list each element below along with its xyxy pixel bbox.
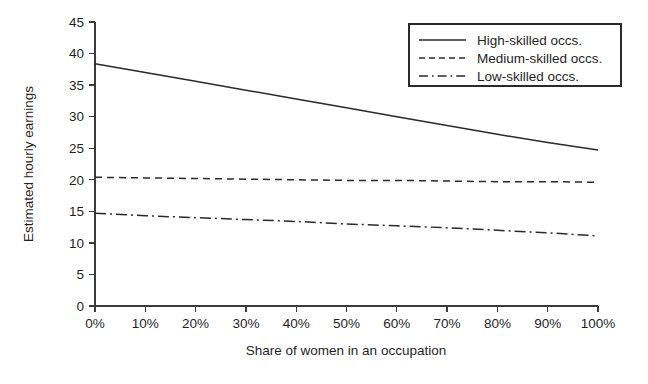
- legend-label-1: Medium-skilled occs.: [477, 51, 602, 66]
- y-tick-label: 10: [69, 236, 84, 251]
- x-tick-label: 90%: [534, 316, 561, 331]
- legend-label-0: High-skilled occs.: [477, 33, 582, 48]
- y-tick-group: 051015202530354045: [69, 15, 95, 314]
- series-line-dash-dot: [95, 213, 598, 236]
- x-tick-label: 80%: [484, 316, 511, 331]
- x-tick-label: 60%: [383, 316, 410, 331]
- series-line-dashed: [95, 177, 598, 182]
- y-tick-label: 45: [69, 15, 84, 30]
- x-tick-label: 100%: [581, 316, 616, 331]
- y-tick-label: 5: [76, 267, 84, 282]
- x-tick-label: 40%: [283, 316, 310, 331]
- x-tick-group: 0%10%20%30%40%50%60%70%80%90%100%: [85, 306, 615, 331]
- y-tick-label: 35: [69, 78, 84, 93]
- y-tick-label: 25: [69, 141, 84, 156]
- x-tick-label: 10%: [132, 316, 159, 331]
- y-tick-label: 15: [69, 204, 84, 219]
- x-tick-label: 0%: [85, 316, 105, 331]
- y-tick-label: 0: [76, 299, 84, 314]
- x-axis-title: Share of women in an occupation: [246, 343, 446, 358]
- legend-label-2: Low-skilled occs.: [477, 69, 579, 84]
- y-tick-label: 20: [69, 173, 84, 188]
- x-tick-label: 50%: [333, 316, 360, 331]
- series-group: [95, 64, 598, 236]
- chart-container: 051015202530354045 0%10%20%30%40%50%60%7…: [0, 0, 648, 384]
- legend: High-skilled occs.Medium-skilled occs.Lo…: [409, 24, 621, 86]
- x-tick-label: 20%: [182, 316, 209, 331]
- y-tick-label: 30: [69, 109, 84, 124]
- x-tick-label: 70%: [434, 316, 461, 331]
- y-axis-title: Estimated hourly earnings: [21, 86, 36, 242]
- line-chart: 051015202530354045 0%10%20%30%40%50%60%7…: [0, 0, 648, 384]
- y-tick-label: 40: [69, 46, 84, 61]
- x-tick-label: 30%: [232, 316, 259, 331]
